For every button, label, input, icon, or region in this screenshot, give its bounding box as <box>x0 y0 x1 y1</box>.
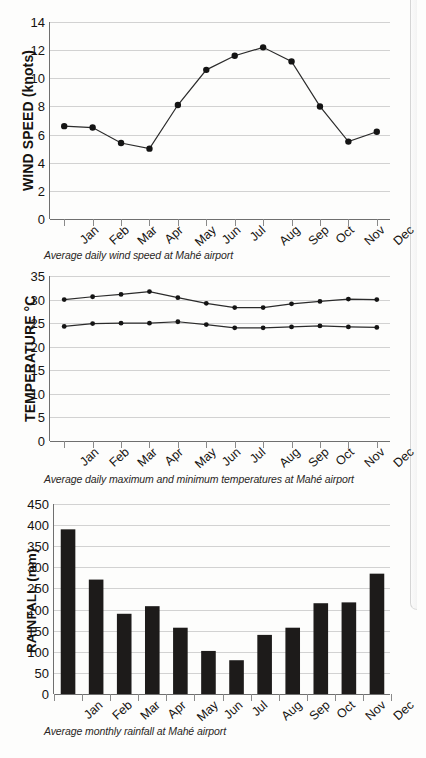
data-point-marker <box>288 58 294 64</box>
y-axis-tick-label: 8 <box>15 99 45 114</box>
y-axis-tick-label: 200 <box>19 602 49 617</box>
bar <box>285 628 300 694</box>
y-axis-tick-label: 5 <box>15 410 45 425</box>
x-axis-tick-mark <box>263 219 264 226</box>
x-axis-label-jan: Jan <box>77 223 101 247</box>
y-axis-tick-label: 0 <box>15 434 45 449</box>
y-axis-tick-label: 4 <box>15 155 45 170</box>
x-axis-label-sep: Sep <box>306 698 332 723</box>
figure-caption-wind: Average daily wind speed at Mahé airport <box>44 249 233 261</box>
x-axis-tick-mark <box>194 694 195 701</box>
y-axis-tick-label: 14 <box>15 15 45 30</box>
x-axis-label-jan: Jan <box>81 698 105 722</box>
x-axis-tick-mark <box>263 441 264 448</box>
data-point-marker <box>318 299 323 304</box>
series-canvas <box>50 22 391 219</box>
x-axis-tick-mark <box>363 694 364 701</box>
bar <box>201 651 216 694</box>
x-axis-label-feb: Feb <box>106 223 131 248</box>
figure-rainfall: RAINFALL (mm) 05010015020025030035040045… <box>0 498 426 756</box>
data-point-marker <box>147 321 152 326</box>
data-series-line <box>64 322 377 328</box>
data-point-marker <box>89 124 95 130</box>
x-axis-label-may: May <box>192 445 219 471</box>
axis-baseline <box>50 441 390 442</box>
x-axis-label-nov: Nov <box>363 698 389 723</box>
x-axis-label-dec: Dec <box>390 223 416 248</box>
x-axis-label-nov: Nov <box>362 445 388 470</box>
data-point-marker <box>62 297 67 302</box>
x-axis-label-jun: Jun <box>222 698 246 722</box>
data-point-marker <box>175 102 181 108</box>
x-axis-label-apr: Apr <box>165 698 189 721</box>
scanned-page: WIND SPEED (knots) 02468101214 JanFebMar… <box>0 0 426 758</box>
x-axis-label-jul: Jul <box>249 698 270 719</box>
y-axis-tick-label: 100 <box>19 644 49 659</box>
x-axis-label-feb: Feb <box>106 445 131 470</box>
y-axis-tick-label: 25 <box>15 316 45 331</box>
data-series-line <box>64 292 377 308</box>
data-point-marker <box>90 321 95 326</box>
y-axis-tick-label: 10 <box>15 386 45 401</box>
data-point-marker <box>204 322 209 327</box>
x-axis-label-mar: Mar <box>138 698 163 723</box>
bar <box>370 574 385 694</box>
x-axis-label-aug: Aug <box>277 223 303 248</box>
y-axis-tick-label: 350 <box>19 539 49 554</box>
data-point-marker <box>289 301 294 306</box>
bar <box>145 606 160 694</box>
data-series-line <box>64 47 377 148</box>
data-point-marker <box>62 324 67 329</box>
x-axis-label-oct: Oct <box>334 698 358 721</box>
figure-wind-speed: WIND SPEED (knots) 02468101214 JanFebMar… <box>0 6 426 262</box>
data-point-marker <box>119 292 124 297</box>
bar <box>89 580 104 694</box>
plot-area-temperature <box>49 276 390 441</box>
data-point-marker <box>204 301 209 306</box>
figure-caption-temperature: Average daily maximum and minimum temper… <box>44 473 354 485</box>
bar <box>257 635 272 694</box>
x-axis-tick-mark <box>279 694 280 701</box>
x-axis-label-dec: Dec <box>391 698 417 723</box>
x-axis-label-nov: Nov <box>362 223 388 248</box>
data-point-marker <box>147 289 152 294</box>
y-axis-tick-label: 300 <box>19 560 49 575</box>
data-point-marker <box>90 294 95 299</box>
x-axis-tick-mark <box>110 694 111 701</box>
y-axis-tick-label: 50 <box>19 665 49 680</box>
bar <box>173 628 188 694</box>
data-point-marker <box>374 325 379 330</box>
y-axis-tick-label: 2 <box>15 183 45 198</box>
x-axis-label-jun: Jun <box>219 223 243 247</box>
data-point-marker <box>261 325 266 330</box>
x-axis-label-jul: Jul <box>247 223 268 244</box>
series-canvas <box>54 504 391 694</box>
data-point-marker <box>118 140 124 146</box>
data-point-marker <box>260 44 266 50</box>
x-axis-tick-mark <box>138 694 139 701</box>
data-point-marker <box>346 325 351 330</box>
y-axis-ticks-rainfall: 050100150200250300350400450 <box>23 498 49 756</box>
x-axis-label-may: May <box>194 698 221 724</box>
x-axis-tick-mark <box>54 694 55 701</box>
data-point-marker <box>289 325 294 330</box>
x-axis-label-jul: Jul <box>247 445 268 466</box>
data-point-marker <box>61 123 67 129</box>
y-axis-tick-label: 30 <box>15 292 45 307</box>
x-axis-tick-mark <box>223 694 224 701</box>
x-axis-tick-mark <box>64 219 65 226</box>
x-axis-label-aug: Aug <box>278 698 304 723</box>
axis-baseline <box>50 219 390 220</box>
x-axis-label-oct: Oct <box>333 223 357 246</box>
bar <box>313 603 328 694</box>
x-axis-label-mar: Mar <box>135 223 160 248</box>
figure-temperature: TEMPERATURE °C 05101520253035 JanFebMarA… <box>0 266 426 498</box>
data-point-marker <box>203 67 209 73</box>
bar <box>229 660 244 694</box>
data-point-marker <box>119 321 124 326</box>
x-axis-tick-mark <box>391 694 392 701</box>
y-axis-tick-label: 400 <box>19 518 49 533</box>
y-axis-ticks-temperature: 05101520253035 <box>19 266 45 498</box>
data-point-marker <box>374 297 379 302</box>
x-axis-label-dec: Dec <box>390 445 416 470</box>
